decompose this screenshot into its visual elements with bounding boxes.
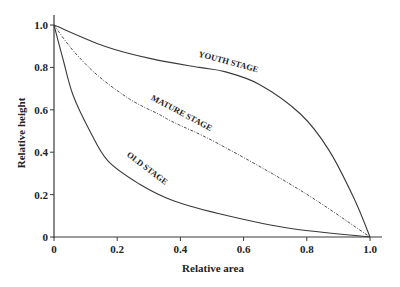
hypsometric-curve-chart: 00.20.40.60.81.000.20.40.60.81.0 YOUTH S…: [0, 0, 400, 287]
y-tick-label: 1.0: [34, 19, 48, 31]
old-stage-label: OLD STAGE: [125, 149, 170, 187]
youth-stage-label: YOUTH STAGE: [198, 49, 260, 75]
x-tick-label: 0.8: [300, 243, 314, 255]
y-axis-title: Relative height: [15, 97, 27, 168]
y-tick-label: 0: [43, 231, 49, 243]
x-tick-label: 0.2: [110, 243, 124, 255]
y-tick-label: 0.6: [34, 104, 48, 116]
x-axis-title: Relative area: [182, 262, 244, 274]
x-tick-label: 1.0: [363, 243, 377, 255]
mature-stage-label: MATURE STAGE: [150, 92, 215, 133]
y-tick-label: 0.8: [34, 61, 48, 73]
x-tick-label: 0.6: [237, 243, 251, 255]
x-tick-label: 0.4: [174, 243, 188, 255]
curve-labels: YOUTH STAGEMATURE STAGEOLD STAGE: [125, 49, 260, 187]
y-tick-label: 0.4: [34, 146, 48, 158]
x-tick-label: 0: [51, 243, 57, 255]
y-tick-label: 0.2: [34, 189, 48, 201]
